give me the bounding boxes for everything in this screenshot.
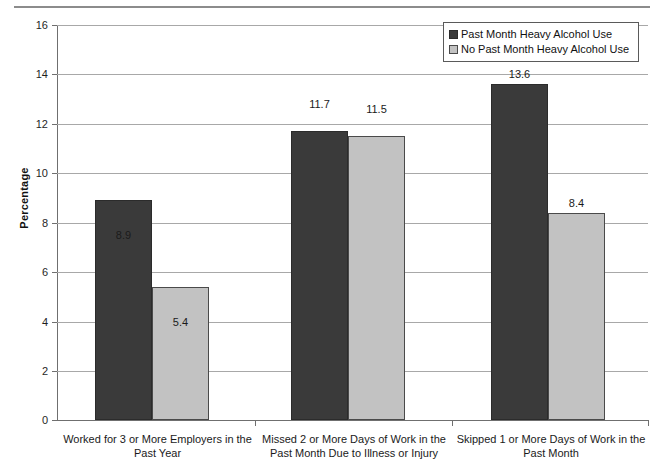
y-tick-label-14: 14 (22, 69, 48, 80)
bar-value-group1-series1: 8.9 (95, 230, 152, 241)
x-category-label-2: Missed 2 or More Days of Work in the Pas… (256, 432, 452, 460)
legend-label-series2: No Past Month Heavy Alcohol Use (461, 44, 629, 55)
x-category-label-3-line1: Skipped 1 or More Days of Work in the (453, 432, 649, 446)
legend-item-no-past-month-heavy-alcohol-use[interactable]: No Past Month Heavy Alcohol Use (449, 42, 633, 57)
y-tick-label-10: 10 (22, 168, 48, 179)
bar-group3-series2[interactable] (548, 213, 605, 420)
legend-label-series1: Past Month Heavy Alcohol Use (461, 29, 612, 40)
bar-value-group3-series2: 8.4 (548, 198, 605, 209)
bar-group2-series1[interactable] (291, 131, 348, 420)
x-category-label-1: Worked for 3 or More Employers in the Pa… (60, 432, 255, 460)
gridline-14 (57, 74, 648, 75)
bar-group3-series1[interactable] (491, 84, 548, 420)
y-tick-label-4: 4 (22, 317, 48, 328)
x-tick-mark-2 (452, 420, 453, 426)
x-axis-line (57, 420, 648, 421)
bar-value-group1-series2: 5.4 (152, 317, 209, 328)
x-category-label-1-line2: Past Year (60, 446, 255, 460)
bar-value-group3-series1: 13.6 (491, 69, 548, 80)
x-category-label-2-line2: Past Month Due to Illness or Injury (256, 446, 452, 460)
bar-group1-series2[interactable] (152, 287, 209, 420)
x-category-label-3: Skipped 1 or More Days of Work in the Pa… (453, 432, 649, 460)
y-tick-label-12: 12 (22, 119, 48, 130)
y-tick-label-0: 0 (22, 415, 48, 426)
x-category-label-2-line1: Missed 2 or More Days of Work in the (256, 432, 452, 446)
y-tick-label-16: 16 (22, 20, 48, 31)
bar-value-group2-series1: 11.7 (291, 99, 348, 110)
chart-legend: Past Month Heavy Alcohol Use No Past Mon… (443, 22, 639, 62)
x-category-label-1-line1: Worked for 3 or More Employers in the (60, 432, 255, 446)
x-tick-mark-1 (255, 420, 256, 426)
legend-swatch-icon-series2 (449, 45, 458, 54)
plot-area: 8.9 5.4 11.7 11.5 13.6 8.4 (57, 25, 648, 420)
y-axis-title: Percentage (18, 148, 30, 248)
x-tick-mark-3 (648, 420, 649, 426)
bar-group2-series2[interactable] (348, 136, 405, 420)
gridline-12 (57, 124, 648, 125)
y-tick-label-2: 2 (22, 366, 48, 377)
bar-chart: Percentage 16 14 12 10 8 6 4 2 0 8.9 5.4… (0, 0, 662, 473)
legend-item-past-month-heavy-alcohol-use[interactable]: Past Month Heavy Alcohol Use (449, 27, 633, 42)
legend-swatch-icon-series1 (449, 30, 458, 39)
x-category-label-3-line2: Past Month (453, 446, 649, 460)
y-tick-label-6: 6 (22, 267, 48, 278)
y-tick-label-8: 8 (22, 218, 48, 229)
bar-value-group2-series2: 11.5 (348, 104, 405, 115)
